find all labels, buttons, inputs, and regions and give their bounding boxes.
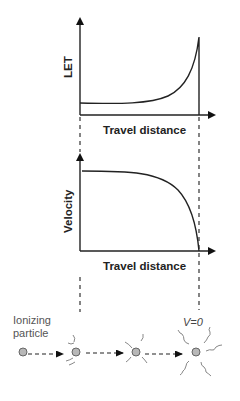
- let-x-axis-label: Travel distance: [103, 124, 186, 136]
- particle-track: Ionizing particle V=0: [13, 314, 222, 376]
- let-axis-label: LET: [62, 56, 74, 78]
- let-curve: [80, 37, 199, 115]
- particle-3: [132, 348, 140, 356]
- ionizing-label-line2: particle: [13, 327, 48, 339]
- velocity-axis-label: Velocity: [62, 189, 74, 233]
- let-chart: LET Travel distance: [62, 19, 214, 136]
- velocity-curve: [82, 171, 199, 251]
- diagram-canvas: LET Travel distance Velocity Travel dist…: [0, 0, 240, 401]
- particle-4: [192, 348, 200, 356]
- particle-2: [72, 348, 80, 356]
- particle-1: [19, 348, 27, 356]
- velocity-x-axis-label: Travel distance: [103, 260, 186, 272]
- v-zero-label: V=0: [183, 316, 204, 328]
- velocity-chart: Velocity Travel distance: [62, 155, 214, 272]
- ionizing-label-line1: Ionizing: [13, 314, 51, 326]
